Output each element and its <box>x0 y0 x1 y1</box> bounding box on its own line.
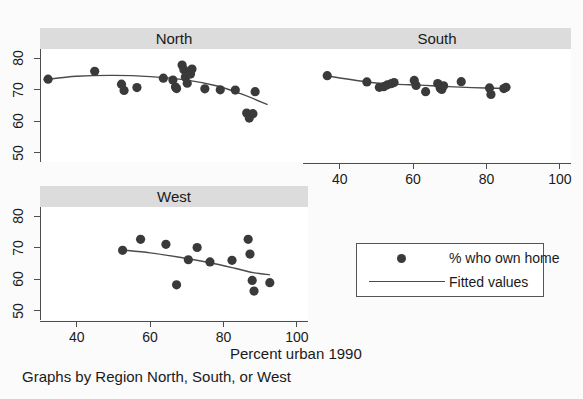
y-tick-label-50: 50 <box>10 141 26 165</box>
y-tick-label-60: 60 <box>10 109 26 133</box>
scatter-point <box>43 75 52 84</box>
scatter-point <box>200 84 209 93</box>
scatter-point <box>184 255 193 264</box>
scatter-point <box>205 257 214 266</box>
y-tick-label-70: 70 <box>10 236 26 260</box>
panel-south-plot-area <box>303 49 571 162</box>
scatter-point <box>248 109 257 118</box>
x-tick-label-80: 80 <box>207 329 241 345</box>
stata-graph-figure: North 50607080 South 406080100 West 5060… <box>0 0 583 399</box>
y-tick-label-50: 50 <box>10 299 26 323</box>
x-tick-label-100: 100 <box>280 329 314 345</box>
scatter-point <box>439 81 448 90</box>
panel-north: North <box>40 28 308 162</box>
panel-west-title: West <box>40 186 308 207</box>
legend-key-line <box>367 270 445 294</box>
scatter-point <box>421 87 430 96</box>
scatter-point <box>227 256 236 265</box>
scatter-point <box>265 278 274 287</box>
scatter-point <box>90 67 99 76</box>
scatter-point <box>172 84 181 93</box>
x-axis-west <box>35 320 313 330</box>
scatter-point <box>136 235 145 244</box>
panel-south-canvas <box>303 49 571 162</box>
x-tick-label-60: 60 <box>133 329 167 345</box>
scatter-point <box>183 79 192 88</box>
y-tick-label-80: 80 <box>10 46 26 70</box>
scatter-point <box>216 85 225 94</box>
scatter-point <box>457 77 466 86</box>
y-axis-north <box>31 45 41 166</box>
legend-label-line: Fitted values <box>449 270 528 294</box>
scatter-point <box>486 90 495 99</box>
y-tick-label-70: 70 <box>10 78 26 102</box>
panel-south-title: South <box>303 28 571 49</box>
graph-caption: Graphs by Region North, South, or West <box>22 368 291 385</box>
scatter-point <box>501 83 510 92</box>
fitted-line-icon <box>369 281 445 282</box>
y-axis-west <box>31 203 41 324</box>
panel-north-plot-area <box>40 49 308 162</box>
scatter-point <box>411 81 420 90</box>
scatter-point <box>172 280 181 289</box>
scatter-point <box>132 83 141 92</box>
scatter-point <box>251 87 260 96</box>
scatter-point <box>248 276 257 285</box>
panel-west: West <box>40 186 308 320</box>
scatter-point <box>245 249 254 258</box>
panel-north-title: North <box>40 28 308 49</box>
y-tick-label-60: 60 <box>10 267 26 291</box>
scatter-point <box>323 71 332 80</box>
legend-key-marker <box>367 246 445 270</box>
scatter-point <box>231 86 240 95</box>
legend-entry-line: Fitted values <box>357 270 543 294</box>
panel-west-plot-area <box>40 207 308 320</box>
panel-west-canvas <box>40 207 308 320</box>
scatter-point <box>119 86 128 95</box>
scatter-point <box>362 77 371 86</box>
scatter-point <box>187 64 196 73</box>
x-tick-label-100: 100 <box>543 171 577 187</box>
x-tick-label-80: 80 <box>470 171 504 187</box>
x-tick-label-40: 40 <box>323 171 357 187</box>
x-tick-label-40: 40 <box>60 329 94 345</box>
scatter-point <box>193 243 202 252</box>
legend-entry-marker: % who own home <box>357 246 543 270</box>
scatter-point <box>244 235 253 244</box>
legend: % who own home Fitted values <box>356 243 544 297</box>
scatter-point <box>159 74 168 83</box>
legend-label-marker: % who own home <box>449 246 560 270</box>
scatter-point <box>249 287 258 296</box>
scatter-point <box>161 240 170 249</box>
panel-south: South <box>303 28 571 162</box>
y-tick-label-80: 80 <box>10 204 26 228</box>
scatter-point <box>389 78 398 87</box>
scatter-point <box>118 246 127 255</box>
scatter-marker-icon <box>397 254 406 263</box>
x-axis-south <box>298 162 576 172</box>
x-axis-title: Percent urban 1990 <box>230 345 362 362</box>
panel-north-canvas <box>40 49 308 162</box>
x-tick-label-60: 60 <box>396 171 430 187</box>
